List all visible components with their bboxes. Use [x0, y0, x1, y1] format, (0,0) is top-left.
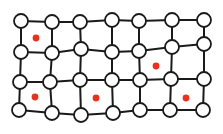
- grid-node: [43, 75, 57, 89]
- grid-node: [105, 45, 119, 59]
- grid-node: [13, 75, 27, 89]
- grid-node: [165, 13, 179, 27]
- grid-node: [74, 42, 88, 56]
- red-marker-dot: [153, 63, 160, 70]
- grid-node: [197, 13, 211, 27]
- grid-node: [105, 13, 119, 27]
- grid-node: [14, 45, 28, 59]
- grid-node: [196, 103, 210, 117]
- grid-node: [14, 14, 28, 28]
- grid-node: [132, 14, 146, 28]
- grid-node: [73, 15, 87, 29]
- grid-node: [74, 108, 88, 122]
- grid-node: [12, 103, 26, 117]
- grid-node: [133, 73, 147, 87]
- red-marker-dot: [33, 35, 40, 42]
- grid-node: [73, 73, 87, 87]
- grid-node: [163, 103, 177, 117]
- edges-layer: [19, 20, 204, 115]
- red-marker-dot: [183, 95, 190, 102]
- grid-node: [197, 37, 211, 51]
- grid-node: [165, 40, 179, 54]
- grid-node: [197, 72, 211, 86]
- red-marker-dot: [93, 95, 100, 102]
- grid-node: [164, 72, 178, 86]
- grid-node: [105, 73, 119, 87]
- grid-node: [133, 103, 147, 117]
- grid-node: [106, 106, 120, 120]
- red-marker-dot: [32, 94, 39, 101]
- grid-node: [132, 44, 146, 58]
- grid-diagram: [0, 0, 223, 134]
- grid-node: [45, 106, 59, 120]
- grid-node: [45, 15, 59, 29]
- grid-node: [45, 46, 59, 60]
